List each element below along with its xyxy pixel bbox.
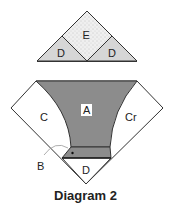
label-d-bottom: D [82, 164, 90, 176]
label-cr: Cr [125, 111, 137, 123]
label-c: C [40, 111, 48, 123]
bottom-unit: A C Cr B D [11, 81, 163, 184]
label-d-right: D [108, 47, 116, 59]
quilt-diagram: E D D A C Cr B D [0, 0, 171, 211]
top-triangle-unit: E D D [37, 11, 137, 62]
label-b: B [37, 160, 44, 172]
diagram-caption: Diagram 2 [0, 188, 171, 203]
label-e: E [83, 29, 90, 41]
label-a: A [83, 104, 91, 116]
b-dot [71, 152, 73, 154]
label-d-left: D [57, 47, 65, 59]
piece-b [62, 147, 111, 158]
